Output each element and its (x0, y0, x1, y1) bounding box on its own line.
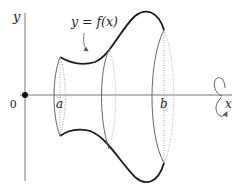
curve-label: y = f(x) (70, 14, 118, 29)
origin-dot (22, 92, 28, 98)
revolution-diagram: y 0 a b x y = f(x) (0, 0, 243, 193)
y-axis-label: y (12, 9, 21, 24)
bound-b-label: b (160, 97, 168, 111)
cross-section-middle-front (102, 49, 110, 149)
origin-label: 0 (10, 96, 17, 111)
x-axis-arrow-tip (230, 94, 232, 96)
curve-label-pointer (84, 33, 88, 51)
x-axis-label: x (225, 97, 232, 111)
bound-a-label: a (56, 97, 63, 111)
curve-lower (60, 130, 164, 182)
cross-section-middle-back (109, 49, 116, 149)
